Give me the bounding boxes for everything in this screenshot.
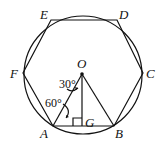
label-A: A — [39, 126, 48, 141]
label-B: B — [115, 126, 123, 141]
right-angle-mark — [73, 118, 82, 126]
label-O: O — [77, 56, 87, 71]
label-E: E — [39, 7, 48, 22]
label-F: F — [9, 66, 19, 81]
label-D: D — [118, 7, 129, 22]
label-G: G — [85, 115, 95, 130]
angle-label-60: 60° — [45, 96, 62, 110]
angle-label-30: 30° — [59, 77, 76, 91]
hexagon-diagram: E D F C A B O G 30° 60° — [0, 0, 162, 143]
label-C: C — [146, 66, 155, 81]
center-point — [80, 72, 84, 76]
